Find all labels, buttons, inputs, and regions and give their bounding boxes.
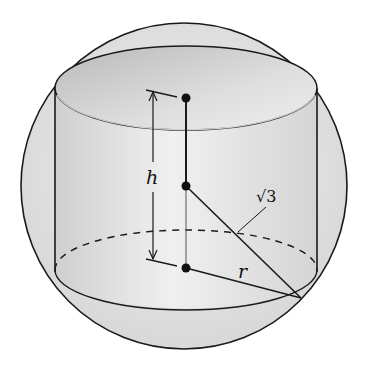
bottom-center-point	[182, 264, 191, 273]
top-center-point	[182, 94, 191, 103]
label-h: h	[146, 166, 158, 188]
diagram: h r √3	[0, 0, 368, 370]
center-point	[182, 182, 191, 191]
label-sqrt3: √3	[256, 187, 276, 206]
